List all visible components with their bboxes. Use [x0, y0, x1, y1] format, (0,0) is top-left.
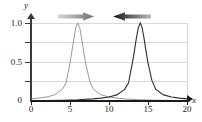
left-motion-arrow-icon	[58, 12, 94, 21]
y-tick-label-0.5: 0.5	[0, 58, 22, 67]
y-tick-1.0	[25, 23, 31, 24]
curve-left-pulse	[31, 23, 187, 101]
x-tick-label-10: 10	[99, 104, 119, 114]
y-axis-line	[30, 18, 32, 102]
y-axis-arrowhead-icon	[27, 13, 35, 19]
x-axis-label: x	[192, 95, 196, 105]
wave-pulse-chart: 1.0 0.5 0 0 5 10 15 20 y x	[0, 0, 202, 122]
curve-right-pulse	[31, 23, 187, 101]
x-tick-label-0: 0	[21, 104, 41, 114]
x-tick-label-5: 5	[60, 104, 80, 114]
y-tick-0.25	[25, 81, 31, 82]
x-tick-label-15: 15	[138, 104, 158, 114]
y-tick-0.75	[25, 42, 31, 43]
x-tick-label-20: 20	[177, 104, 197, 114]
y-tick-label-0: 0	[0, 96, 22, 105]
y-tick-label-1.0: 1.0	[0, 19, 22, 28]
y-axis-label: y	[24, 0, 28, 10]
y-tick-0.5	[25, 62, 31, 63]
right-motion-arrow-icon	[113, 12, 151, 21]
